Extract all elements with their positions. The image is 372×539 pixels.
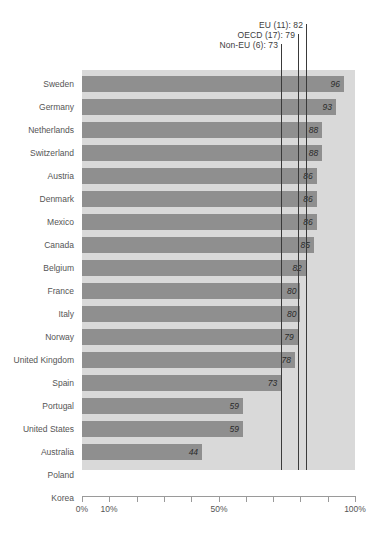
category-label: United States: [0, 418, 78, 441]
category-label: Germany: [0, 96, 78, 119]
bar-row: 82: [82, 257, 355, 280]
x-axis-tick: [164, 496, 165, 502]
category-label: Italy: [0, 303, 78, 326]
reference-line-leader: [298, 34, 299, 70]
category-label: Belgium: [0, 257, 78, 280]
category-label: Poland: [0, 464, 78, 487]
x-axis-tick: [300, 496, 301, 502]
category-label: United Kingdom: [0, 349, 78, 372]
category-label: Korea: [0, 487, 78, 510]
bar-row: 80: [82, 280, 355, 303]
bar-value-label: 78: [82, 352, 291, 368]
x-axis-tick-label: 50%: [210, 504, 227, 514]
bar-value-label: 80: [82, 283, 296, 299]
category-label: Netherlands: [0, 119, 78, 142]
x-axis-tick-label: 100%: [344, 504, 366, 514]
x-axis-tick: [109, 496, 110, 502]
x-axis-tick: [219, 496, 220, 502]
bar-row: 85: [82, 234, 355, 257]
bar-row: 86: [82, 188, 355, 211]
bar-value-label: 59: [82, 398, 239, 414]
x-axis-tick: [246, 496, 247, 502]
reference-line-label: Non-EU (6): 73: [0, 40, 278, 50]
category-label: Denmark: [0, 188, 78, 211]
x-axis-tick: [273, 496, 274, 502]
bar-row: 88: [82, 119, 355, 142]
bar-row: 79: [82, 326, 355, 349]
bar-value-label: 86: [82, 191, 313, 207]
bar-row: 78: [82, 349, 355, 372]
x-axis-tick: [328, 496, 329, 502]
x-axis-tick-label: 0%: [76, 504, 88, 514]
category-label: Sweden: [0, 73, 78, 96]
bar-value-label: 44: [82, 444, 198, 460]
bar-value-label: 86: [82, 168, 313, 184]
bar-row: 88: [82, 142, 355, 165]
category-label: Norway: [0, 326, 78, 349]
reference-line-annotations: Non-EU (6): 73OECD (17): 79EU (11): 82: [0, 0, 372, 72]
x-axis-tick: [355, 496, 356, 502]
x-axis: 0%10%50%100%: [82, 496, 355, 536]
reference-line-oecd-17: [298, 70, 299, 470]
bar-row: 86: [82, 165, 355, 188]
category-axis-labels: SwedenGermanyNetherlandsSwitzerlandAustr…: [0, 70, 78, 470]
category-label: Canada: [0, 234, 78, 257]
category-label: Mexico: [0, 211, 78, 234]
reference-line-eu-11: [306, 70, 307, 470]
category-label: Switzerland: [0, 142, 78, 165]
bar-value-label: 59: [82, 421, 239, 437]
bar-value-label: 88: [82, 145, 318, 161]
bar-row: 59: [82, 418, 355, 441]
x-axis-tick: [191, 496, 192, 502]
plot-area: 9693888886868685828080797873595944……: [82, 70, 355, 470]
x-axis-tick-label: 10%: [100, 504, 117, 514]
no-data-marker: …: [86, 467, 95, 470]
bar-value-label: 93: [82, 99, 332, 115]
bar-value-label: 79: [82, 329, 294, 345]
bar-row: 80: [82, 303, 355, 326]
reference-line-label: OECD (17): 79: [0, 30, 295, 40]
category-label: France: [0, 280, 78, 303]
reference-line-label: EU (11): 82: [0, 20, 303, 30]
bar-value-label: 88: [82, 122, 318, 138]
bar-value-label: 86: [82, 214, 313, 230]
x-axis-tick: [137, 496, 138, 502]
bar-row: 86: [82, 211, 355, 234]
bar-row: 59: [82, 395, 355, 418]
category-label: Australia: [0, 441, 78, 464]
category-label: Portugal: [0, 395, 78, 418]
reference-line-non-eu-6: [281, 70, 282, 470]
bar-row: 93: [82, 96, 355, 119]
x-axis-tick: [82, 496, 83, 502]
bar-value-label: 82: [82, 260, 302, 276]
reference-line-leader: [306, 24, 307, 70]
bar-row: 73: [82, 372, 355, 395]
bar-row: 96: [82, 73, 355, 96]
category-label: Austria: [0, 165, 78, 188]
bar-value-label: 85: [82, 237, 310, 253]
bar-value-label: 96: [82, 76, 340, 92]
bar-value-label: 80: [82, 306, 296, 322]
horizontal-bar-chart: Non-EU (6): 73OECD (17): 79EU (11): 82 S…: [0, 0, 372, 539]
bar-row: …: [82, 464, 355, 470]
reference-line-leader: [281, 44, 282, 70]
category-label: Spain: [0, 372, 78, 395]
bar-row: 44: [82, 441, 355, 464]
bar-value-label: 73: [82, 375, 277, 391]
